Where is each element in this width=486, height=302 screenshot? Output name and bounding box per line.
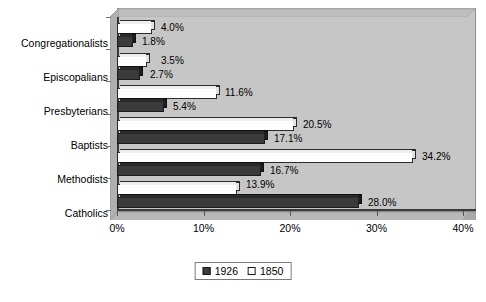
bar-value-label: 17.1% [274, 134, 302, 144]
chart-container: Congregationalists Episcopalians Presbyt… [0, 0, 486, 302]
bar-end-cap [132, 34, 136, 43]
bar-value-label: 16.7% [270, 166, 298, 176]
bar-end-cap [216, 86, 220, 95]
bar-top-face [120, 194, 362, 198]
legend-swatch-icon [248, 267, 256, 275]
x-axis-tick [463, 211, 464, 216]
category-label: Methodists [2, 174, 108, 185]
x-axis-tick [290, 211, 291, 216]
bar-value-label: 11.6% [225, 88, 253, 98]
bar-value-label: 3.5% [161, 56, 184, 66]
bar-1926-congregationalists[interactable] [117, 36, 133, 47]
bar-value-label: 20.5% [303, 120, 331, 130]
y-axis-tick [106, 210, 111, 211]
bar-end-cap [236, 182, 240, 191]
bar-top-face [120, 149, 416, 153]
bar-end-cap [260, 163, 264, 172]
y-axis-tick [106, 178, 111, 179]
bar-1926-presbyterians[interactable] [117, 101, 164, 112]
y-axis-tick [106, 146, 111, 147]
plot-area: 4.0% 1.8% 3.5% 2.7% 11.6% [110, 8, 476, 220]
category-label: Presbyterians [2, 106, 108, 117]
x-axis-tick-label: 10% [193, 222, 214, 234]
y-axis-tick [106, 17, 111, 18]
bar-top-face [120, 130, 268, 134]
bar-top-face [120, 162, 264, 166]
bar-value-label: 4.0% [161, 23, 184, 33]
bar-end-cap [146, 54, 150, 63]
x-axis-line [117, 209, 476, 211]
bar-end-cap [163, 99, 167, 108]
bar-top-face [120, 98, 167, 102]
x-axis-tick-label: 20% [279, 222, 300, 234]
bar-end-cap [293, 118, 297, 127]
x-axis-tick-label: 0% [109, 222, 124, 234]
x-axis-tick [204, 211, 205, 216]
legend-item-1850[interactable]: 1850 [248, 265, 283, 277]
bar-value-label: 2.7% [150, 70, 173, 80]
chart-legend: 1926 1850 [195, 262, 292, 280]
plot-top-bevel-icon [110, 8, 476, 17]
plot-floor-bevel-icon [110, 210, 476, 220]
x-axis-tick [117, 211, 118, 216]
bar-value-label: 1.8% [142, 37, 165, 47]
bar-end-cap [151, 21, 155, 30]
x-axis-tick [377, 211, 378, 216]
bar-end-cap [358, 195, 362, 204]
x-axis-tick-label: 40% [452, 222, 473, 234]
plot-inner-surface: 4.0% 1.8% 3.5% 2.7% 11.6% [117, 17, 476, 211]
bar-end-cap [264, 131, 268, 140]
y-axis-tick [106, 114, 111, 115]
bar-1926-baptists[interactable] [117, 133, 265, 144]
category-label: Baptists [2, 140, 108, 151]
legend-swatch-icon [203, 267, 211, 275]
legend-label: 1850 [260, 265, 283, 277]
bar-value-label: 13.9% [246, 180, 274, 190]
x-axis-tick-label: 30% [366, 222, 387, 234]
category-label: Episcopalians [2, 72, 108, 83]
bar-end-cap [412, 150, 416, 159]
bar-top-face [120, 117, 297, 121]
bar-top-face [120, 20, 155, 24]
y-axis-tick [106, 49, 111, 50]
x-axis-labels: 0% 10% 20% 30% 40% [110, 222, 482, 238]
bar-1926-catholics[interactable] [117, 197, 359, 208]
bar-end-cap [139, 67, 143, 76]
category-axis-labels: Congregationalists Episcopalians Presbyt… [0, 8, 108, 220]
category-label: Congregationalists [2, 38, 108, 49]
legend-label: 1926 [215, 265, 238, 277]
bar-1926-episcopalians[interactable] [117, 69, 140, 80]
bar-top-face [120, 85, 220, 89]
category-label: Catholics [2, 208, 108, 219]
bar-1926-methodists[interactable] [117, 165, 261, 176]
bar-top-face [120, 181, 240, 185]
bar-value-label: 5.4% [173, 102, 196, 112]
bar-value-label: 28.0% [368, 198, 396, 208]
legend-item-1926[interactable]: 1926 [203, 265, 238, 277]
y-axis-tick [106, 81, 111, 82]
bar-value-label: 34.2% [422, 152, 450, 162]
